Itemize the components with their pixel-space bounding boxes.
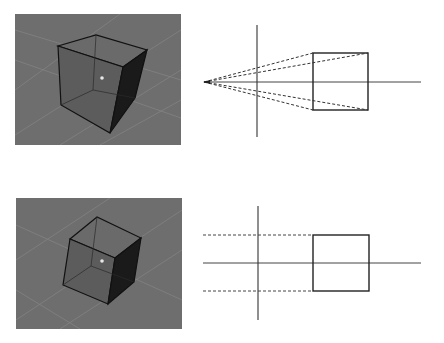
pivot-dot [100, 76, 104, 80]
perspective-viewport [15, 14, 181, 145]
eye-point-icon [203, 80, 210, 84]
perspective-schematic [203, 25, 421, 137]
orthographic-viewport [16, 198, 182, 329]
pivot-dot [100, 259, 104, 263]
projection-figure [0, 0, 444, 343]
orthographic-schematic [203, 206, 421, 320]
